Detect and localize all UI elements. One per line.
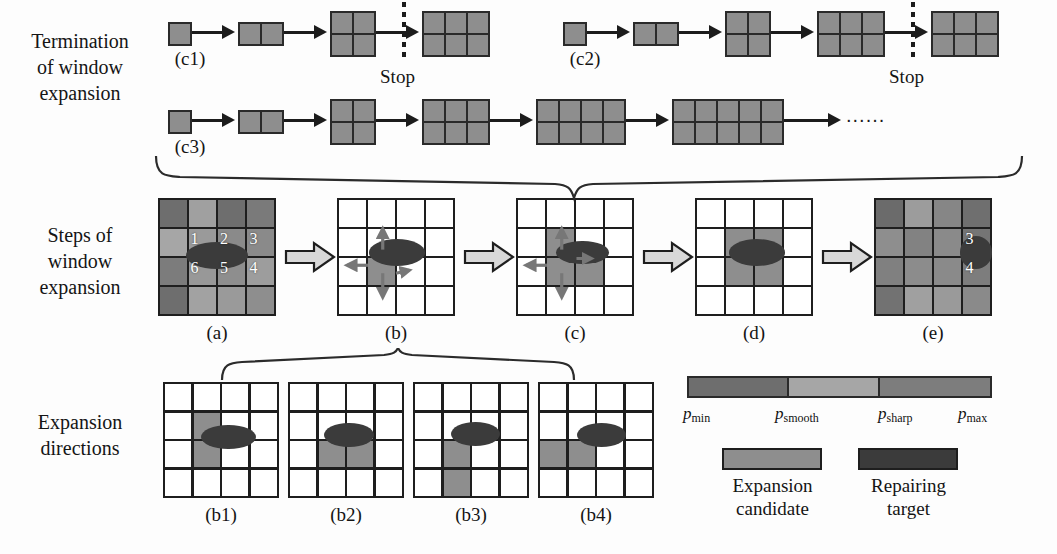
sequence-cell [560, 123, 580, 143]
grid-cell [247, 200, 274, 227]
panel-caption-b3: (b3) [413, 504, 529, 526]
step-transition-arrow [821, 240, 873, 274]
grid-cell [165, 441, 191, 467]
repairing-target-ellipse [324, 423, 373, 447]
grid-cell [697, 287, 724, 314]
cell-number: 4 [966, 259, 974, 277]
sequence-cell [696, 101, 716, 121]
legend-segment-1 [787, 378, 878, 396]
grid-cell [472, 470, 498, 496]
grid-cell [626, 441, 652, 467]
repairing-target-ellipse [201, 425, 256, 449]
grid-cell [251, 441, 277, 467]
cell-number: 5 [220, 259, 228, 277]
panel-caption-a: (a) [158, 322, 276, 344]
legend-tick-symbol: p [958, 404, 967, 423]
grid-cell [876, 287, 903, 314]
grid-cell [247, 287, 274, 314]
brace-top-to-steps [150, 150, 1030, 202]
grid-cell [726, 287, 753, 314]
grid-cell [290, 384, 316, 410]
arrow-head [406, 113, 419, 127]
legend-swatch-repairing-target [858, 448, 958, 470]
grid-cell [540, 384, 566, 410]
grid-cell [876, 200, 903, 227]
legend-label-expansion-candidate: Expansion candidate [700, 474, 845, 520]
sequence-cell [170, 112, 190, 132]
panel-caption-d: (d) [695, 322, 813, 344]
grid-cell [501, 441, 527, 467]
panel-caption-e: (e) [874, 322, 992, 344]
arrow-head [314, 113, 327, 127]
sequence-cell [696, 123, 716, 143]
grid-cell [597, 470, 623, 496]
sequence-cell [538, 101, 558, 121]
grid-cell [472, 384, 498, 410]
grid-cell [160, 229, 187, 256]
sequence-cell [582, 123, 602, 143]
legend-tick-symbol: p [878, 404, 887, 423]
grid-cell [905, 287, 932, 314]
cell-number: 6 [191, 259, 199, 277]
step-transition-arrow [463, 240, 515, 274]
legend-tick-sharp: psharp [878, 404, 913, 424]
sequence-flow-arrow [376, 119, 407, 122]
grid-cell [218, 287, 245, 314]
grid-cell [376, 384, 402, 410]
sequence-cell [354, 123, 374, 143]
grid-cell [347, 470, 373, 496]
repairing-target-ellipse [729, 239, 785, 266]
grid-cell [189, 287, 216, 314]
cell-number: 1 [191, 230, 199, 248]
sequence-cell [332, 101, 352, 121]
grid-cell [290, 413, 316, 439]
cell-number: 3 [250, 230, 258, 248]
arrow-head [222, 113, 235, 127]
cell-number: 3 [966, 230, 974, 248]
grid-cell [540, 470, 566, 496]
sequence-block [536, 99, 626, 145]
sequence-cell [674, 101, 694, 121]
sequence-cell [262, 112, 282, 132]
grid-cell [569, 470, 595, 496]
brace-b-variants [218, 348, 578, 382]
expansion-candidate-cell [540, 441, 566, 467]
grid-cell [160, 200, 187, 227]
sequence-cell [718, 123, 738, 143]
grid-cell [319, 470, 345, 496]
sequence-cell [762, 101, 782, 121]
legend-gradient-bar [687, 376, 992, 398]
grid-cell [963, 287, 990, 314]
grid-cell [165, 384, 191, 410]
grid-cell [290, 441, 316, 467]
sequence-flow-arrow [284, 119, 315, 122]
grid-cell [222, 384, 248, 410]
sequence-cell [446, 101, 466, 121]
grid-cell [934, 200, 961, 227]
sequence-block [238, 110, 284, 134]
sequence-cell [740, 101, 760, 121]
grid-cell [160, 287, 187, 314]
grid-cell [626, 413, 652, 439]
grid-cell [784, 229, 811, 256]
grid-cell [755, 287, 782, 314]
arrow-head [656, 113, 669, 127]
grid-cell [934, 287, 961, 314]
grid-cell [934, 229, 961, 256]
grid-cell [876, 229, 903, 256]
legend-tick-symbol: p [775, 404, 784, 423]
sequence-cell [424, 123, 444, 143]
grid-cell [697, 258, 724, 285]
grid-cell [194, 470, 220, 496]
sequence-flow-arrow [192, 119, 223, 122]
grid-cell [415, 413, 441, 439]
grid-cell [626, 384, 652, 410]
sequence-cell [582, 101, 602, 121]
grid-cell [697, 200, 724, 227]
legend-tick-subscript: min [692, 411, 711, 425]
sequence-cell [604, 123, 624, 143]
cell-number: 2 [220, 230, 228, 248]
panel-caption-b4: (b4) [538, 504, 654, 526]
legend-segment-2 [878, 378, 990, 396]
arrow-head [828, 113, 841, 127]
